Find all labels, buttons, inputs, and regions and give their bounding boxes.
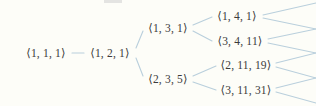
leaf3-stub-lower <box>276 67 316 78</box>
n2-to-n3b <box>136 58 143 76</box>
n3a-to-leaf1 <box>193 17 212 25</box>
leaf2-stub-lower <box>268 43 316 53</box>
n3b-to-leaf3 <box>193 66 216 76</box>
tree-node-level3-lower: ⟨2, 3, 5⟩ <box>148 72 188 86</box>
n3b-to-leaf4 <box>193 82 216 90</box>
leaf2-stub-upper <box>268 29 316 39</box>
tree-node-level3-upper: ⟨1, 3, 1⟩ <box>148 21 188 35</box>
tree-leaf-node-4: ⟨3, 11, 31⟩ <box>221 83 272 97</box>
leaf1-stub-upper <box>263 3 316 15</box>
tree-diagram: ⟨1, 1, 1⟩ ⟨1, 2, 1⟩ ⟨1, 3, 1⟩ ⟨2, 3, 5⟩ … <box>0 0 316 106</box>
tree-leaf-node-1: ⟨1, 4, 1⟩ <box>217 9 257 23</box>
tree-leaf-node-2: ⟨3, 4, 11⟩ <box>217 34 262 48</box>
leaf3-stub-upper <box>276 53 316 63</box>
n2-to-n3a <box>136 31 143 48</box>
tree-node-level2: ⟨1, 2, 1⟩ <box>90 46 130 60</box>
leaf1-stub-lower <box>263 18 316 29</box>
leaf4-stub-lower <box>276 92 316 103</box>
top-edge-artifact <box>104 0 122 3</box>
n3a-to-leaf2 <box>193 31 212 41</box>
tree-node-root: ⟨1, 1, 1⟩ <box>26 46 66 60</box>
tree-leaf-node-3: ⟨2, 11, 19⟩ <box>221 58 272 72</box>
leaf4-stub-upper <box>276 78 316 88</box>
